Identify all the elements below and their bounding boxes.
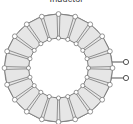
terminal-dot-group xyxy=(123,59,128,80)
wire-bump-inner xyxy=(47,94,51,98)
wire-bump-outer xyxy=(2,66,7,71)
inductor-figure: Inductor xyxy=(0,0,133,124)
wire-bump-inner xyxy=(47,37,51,41)
wire-bump-inner xyxy=(28,57,32,61)
wire-bump-outer xyxy=(39,14,44,19)
wire-bump-inner xyxy=(85,57,89,61)
wire-bump-inner xyxy=(56,96,60,100)
wire-bump-outer xyxy=(100,34,105,39)
wire-bump-inner xyxy=(56,36,60,40)
wire-bump-inner xyxy=(86,66,90,70)
wire-bump-outer xyxy=(12,97,17,102)
toroidal-inductor-diagram xyxy=(0,0,133,124)
wire-bump-outer xyxy=(5,49,10,54)
wire-bump-inner xyxy=(39,90,43,94)
wire-bump-outer xyxy=(100,97,105,102)
wire-bump-inner xyxy=(66,94,70,98)
wire-bump-inner xyxy=(26,66,30,70)
wire-bump-inner xyxy=(81,84,85,88)
wire-bump-outer xyxy=(24,22,29,27)
wire-bump-inner xyxy=(32,84,36,88)
terminal-dot-terminal-top xyxy=(123,59,128,64)
wire-bump-outer xyxy=(110,66,115,71)
wire-bump-outer xyxy=(5,82,10,87)
wire-bump-outer xyxy=(107,82,112,87)
wire-bump-outer xyxy=(56,12,61,17)
wire-bump-outer xyxy=(73,117,78,122)
wire-bump-inner xyxy=(66,37,70,41)
wire-bump-inner xyxy=(81,48,85,52)
wire-bump-outer xyxy=(88,22,93,27)
wire-bump-inner xyxy=(74,42,78,46)
wire-bump-outer xyxy=(39,117,44,122)
wire-bump-inner xyxy=(85,75,89,79)
wire-bump-outer xyxy=(24,109,29,114)
wire-bump-outer xyxy=(12,34,17,39)
wire-bump-inner xyxy=(32,48,36,52)
wire-bump-inner xyxy=(39,42,43,46)
terminal-dot-terminal-bottom xyxy=(123,75,128,80)
wire-bump-outer xyxy=(107,49,112,54)
wire-bump-inner xyxy=(74,90,78,94)
wire-bump-outer xyxy=(56,120,61,124)
wire-bump-outer xyxy=(73,14,78,19)
wire-bump-inner xyxy=(28,75,32,79)
wire-bump-outer xyxy=(88,109,93,114)
